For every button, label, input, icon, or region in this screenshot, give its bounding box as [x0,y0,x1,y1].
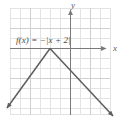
function-equation-label: f(x) = −|x + 2| [16,36,71,45]
y-axis-label: y [71,1,75,10]
x-axis-label: x [113,44,117,53]
graph-figure: f(x) = −|x + 2| y x [0,0,121,123]
coordinate-plane [0,0,121,123]
